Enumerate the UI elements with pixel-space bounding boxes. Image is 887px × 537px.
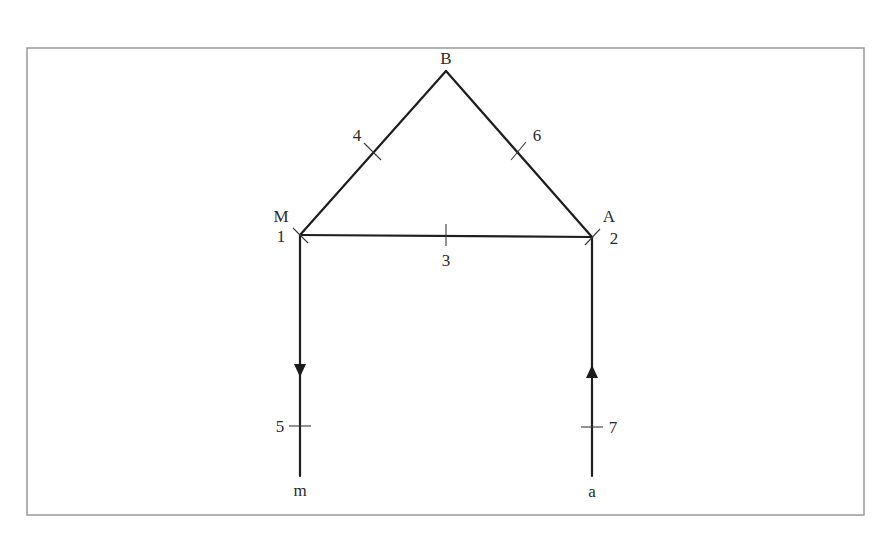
vertex-label-a: a	[588, 482, 596, 501]
tick-edge-6	[511, 142, 526, 160]
arrow-up-icon	[586, 365, 598, 378]
vertex-label-m: m	[293, 481, 306, 500]
vertex-label-M: M	[273, 207, 288, 226]
edge-label-5: 5	[276, 417, 285, 436]
edge-label-4: 4	[353, 126, 362, 145]
edge-label-3: 3	[442, 251, 451, 270]
node-number-2: 2	[610, 229, 619, 248]
diagram-frame	[27, 48, 864, 515]
network-diagram: B M A m a 1 2 4 6 3 5 7	[0, 0, 887, 537]
edge-label-6: 6	[533, 126, 542, 145]
vertex-label-B: B	[440, 49, 451, 68]
vertex-label-A: A	[603, 207, 616, 226]
edge-6-B-A	[446, 71, 592, 237]
node-number-1: 1	[277, 227, 286, 246]
edge-label-7: 7	[609, 418, 618, 437]
arrow-down-icon	[294, 364, 306, 377]
edge-4-M-B	[300, 71, 446, 235]
